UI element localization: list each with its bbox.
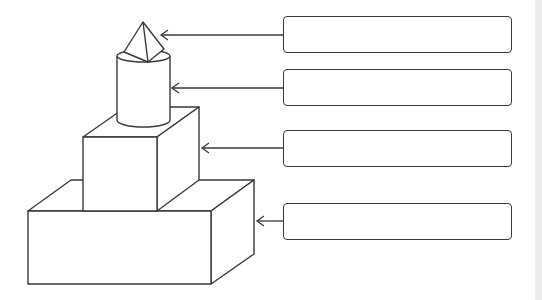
arrow-to-cube [202, 143, 283, 153]
arrow-to-prism [257, 216, 283, 226]
right-edge-strip [535, 0, 542, 300]
cylinder-shape [117, 50, 170, 127]
label-box-pyramid[interactable] [283, 16, 512, 53]
label-box-prism[interactable] [283, 203, 512, 240]
label-box-cylinder[interactable] [283, 69, 512, 106]
label-box-cube[interactable] [283, 130, 512, 167]
arrow-to-pyramid [161, 30, 283, 40]
arrow-to-cylinder [172, 83, 283, 93]
